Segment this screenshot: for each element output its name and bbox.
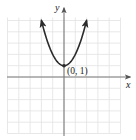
coordinate-graph: y x (0, 1) [0,0,136,140]
vertex-point [62,64,66,68]
y-axis-label: y [54,2,60,13]
x-axis-label: x [125,79,131,90]
vertex-label: (0, 1) [67,66,88,77]
